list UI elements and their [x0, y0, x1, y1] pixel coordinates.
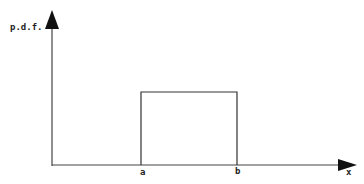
uniform-pdf-diagram: [0, 0, 364, 184]
y-axis-label: p.d.f.: [10, 23, 43, 32]
pdf-rectangle: [141, 92, 237, 165]
tick-label-a: a: [140, 168, 145, 177]
x-axis-label: x: [346, 168, 351, 177]
y-axis-arrowhead-icon: [45, 10, 59, 29]
tick-label-b: b: [235, 167, 240, 176]
